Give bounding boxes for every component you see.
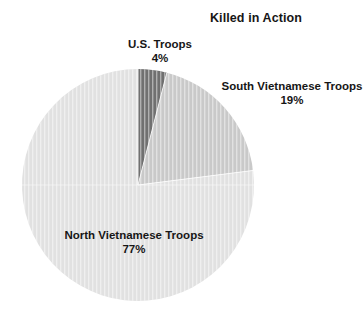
slice-label-south-vietnamese-troops: South Vietnamese Troops 19% <box>221 80 362 107</box>
chart-title: Killed in Action <box>0 11 364 26</box>
slice-label-north-vietnamese-troops-percent: 77% <box>64 243 203 257</box>
slice-label-north-vietnamese-troops: North Vietnamese Troops 77% <box>64 229 203 256</box>
slice-label-us-troops-name: U.S. Troops <box>128 38 192 50</box>
slice-label-us-troops-percent: 4% <box>128 52 192 66</box>
pie-chart: Killed in Action U.S. Troops 4% South Vi… <box>0 0 364 326</box>
slice-label-north-vietnamese-troops-name: North Vietnamese Troops <box>64 229 203 241</box>
slice-label-us-troops: U.S. Troops 4% <box>128 38 192 65</box>
slice-label-south-vietnamese-troops-name: South Vietnamese Troops <box>221 80 362 92</box>
slice-label-south-vietnamese-troops-percent: 19% <box>221 94 362 108</box>
